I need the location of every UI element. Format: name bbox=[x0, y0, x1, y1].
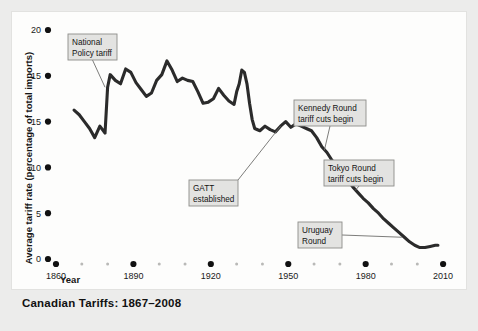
x-tick-dot bbox=[53, 261, 59, 267]
annotation-leader-line bbox=[238, 126, 281, 180]
x-tick-dot bbox=[208, 261, 214, 267]
y-tick-dot bbox=[45, 164, 51, 170]
x-tick-dot bbox=[285, 261, 291, 267]
callout-label-line1: Tokyo Round bbox=[328, 164, 376, 173]
annotation-callout: Kennedy Roundtariff cuts begin bbox=[294, 100, 366, 126]
callout-label-line1: National bbox=[72, 38, 102, 47]
y-tick-label: 15 bbox=[31, 117, 41, 127]
x-minor-dot bbox=[158, 263, 161, 266]
annotation-callout: GATTestablished bbox=[189, 180, 238, 206]
x-minor-dot bbox=[338, 263, 341, 266]
y-axis-title: Average tariff rate (percentage of total… bbox=[23, 52, 34, 264]
x-tick-label: 1950 bbox=[278, 271, 298, 281]
annotation-leader-line bbox=[93, 60, 106, 87]
annotation-callout: Tokyo Roundtariff cuts begin bbox=[324, 160, 394, 186]
figure-container: Average tariff rate (percentage of total… bbox=[0, 0, 478, 331]
x-minor-dot bbox=[261, 263, 264, 266]
x-tick-label: 1860 bbox=[46, 271, 66, 281]
callout-label-line2: tariff cuts begin bbox=[328, 175, 384, 184]
x-tick-dot bbox=[363, 261, 369, 267]
x-tick-label: 1890 bbox=[123, 271, 143, 281]
x-tick-dot bbox=[130, 261, 136, 267]
x-minor-dot bbox=[106, 263, 109, 266]
y-tick-dot bbox=[45, 256, 51, 262]
x-tick-label: 1980 bbox=[356, 271, 376, 281]
x-minor-dot bbox=[416, 263, 419, 266]
y-tick-dot bbox=[45, 119, 51, 125]
callout-label-line1: GATT bbox=[193, 184, 214, 193]
annotation-callouts: NationalPolicy tariffGATTestablishedKenn… bbox=[68, 34, 394, 248]
tariff-rate-line bbox=[74, 61, 438, 248]
x-minor-dot bbox=[235, 263, 238, 266]
callout-label-line2: tariff cuts begin bbox=[298, 115, 354, 124]
y-tick-label: 20 bbox=[31, 25, 41, 35]
x-minor-dot bbox=[80, 263, 83, 266]
callout-label-line2: established bbox=[193, 195, 235, 204]
y-tick-label: 5 bbox=[36, 209, 41, 219]
y-tick-label: 15 bbox=[31, 71, 41, 81]
tariff-line-chart: Average tariff rate (percentage of total… bbox=[12, 12, 466, 289]
callout-label-line2: Round bbox=[302, 237, 327, 246]
annotation-leader-line bbox=[342, 235, 402, 237]
x-minor-dot bbox=[313, 263, 316, 266]
callout-label-line1: Uruguay bbox=[302, 226, 334, 235]
annotation-leader-line bbox=[324, 126, 330, 150]
callout-label-line2: Policy tariff bbox=[72, 49, 113, 58]
y-tick-dot bbox=[45, 27, 51, 33]
y-tick-dot bbox=[45, 73, 51, 79]
x-tick-label: 1920 bbox=[201, 271, 221, 281]
y-tick-label: 10 bbox=[31, 163, 41, 173]
y-axis-ticks: 0510151520 bbox=[31, 25, 51, 264]
annotation-callout: UruguayRound bbox=[298, 222, 342, 248]
x-tick-label: 2010 bbox=[433, 271, 453, 281]
y-tick-dot bbox=[45, 210, 51, 216]
y-tick-label: 0 bbox=[36, 254, 41, 264]
x-minor-dot bbox=[184, 263, 187, 266]
annotation-callout: NationalPolicy tariff bbox=[68, 34, 117, 60]
x-tick-dot bbox=[440, 261, 446, 267]
x-minor-dot bbox=[390, 263, 393, 266]
chart-caption: Canadian Tariffs: 1867–2008 bbox=[22, 297, 181, 309]
plot-panel: Average tariff rate (percentage of total… bbox=[12, 12, 466, 289]
callout-label-line1: Kennedy Round bbox=[298, 104, 357, 113]
